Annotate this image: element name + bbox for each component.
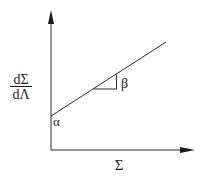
slope-label: β bbox=[121, 76, 128, 91]
y-axis-label-denominator: dΛ bbox=[12, 87, 30, 102]
diagram-canvas: dΣ dΛ Σ α β bbox=[0, 0, 204, 186]
linear-relation-diagram: dΣ dΛ Σ α β bbox=[0, 0, 204, 186]
slope-triangle bbox=[94, 75, 117, 90]
x-axis-arrowhead bbox=[180, 147, 195, 153]
y-axis-label-numerator: dΣ bbox=[13, 72, 28, 87]
trend-line bbox=[51, 42, 166, 116]
y-axis-arrowhead bbox=[48, 10, 54, 24]
x-axis-label: Σ bbox=[115, 157, 124, 173]
intercept-label: α bbox=[53, 114, 60, 129]
